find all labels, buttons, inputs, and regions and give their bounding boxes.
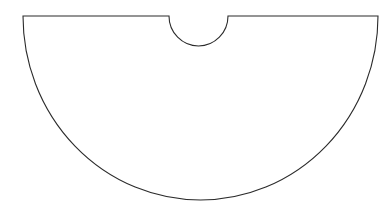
drawing-canvas: Outline line drawing of a half-disc (sem… — [0, 0, 389, 213]
shape-figure: Outline line drawing of a half-disc (sem… — [0, 0, 389, 213]
shape-outline-path — [23, 16, 378, 200]
